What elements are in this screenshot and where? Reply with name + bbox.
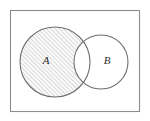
venn-diagram-figure: A B	[0, 0, 150, 121]
set-label-a: A	[42, 54, 50, 66]
set-label-b: B	[104, 54, 111, 66]
venn-diagram-canvas: A B	[0, 0, 150, 121]
